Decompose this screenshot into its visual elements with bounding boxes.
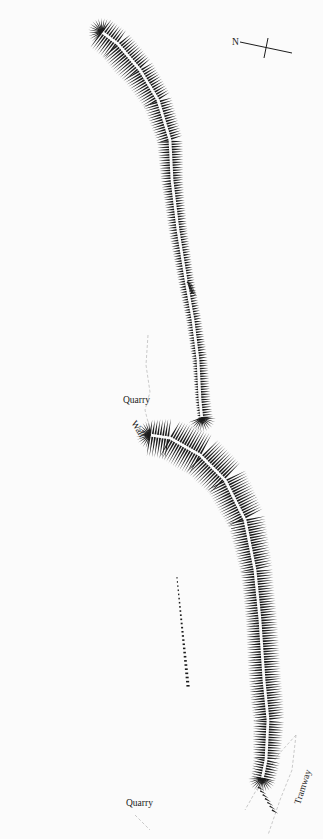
scarp-tick — [184, 664, 187, 666]
scarp-tick — [181, 623, 183, 625]
scarp-tick — [184, 656, 187, 658]
scarp-tick — [185, 673, 188, 675]
scarp-tick — [181, 631, 183, 633]
scarp-tick — [178, 598, 179, 600]
scarp-tick — [183, 648, 185, 650]
scarp-tick — [181, 627, 183, 629]
north-arrow-label: N — [232, 37, 239, 47]
label-quarry-upper: Quarry — [123, 395, 150, 405]
scarp-tick — [182, 635, 184, 637]
label-quarry-lower: Quarry — [126, 798, 153, 808]
scarp-tick — [180, 619, 182, 621]
scarp-tick — [183, 652, 186, 654]
scarp-tick — [179, 602, 181, 604]
scarp-tick — [177, 581, 178, 583]
scarp-tick — [180, 614, 182, 616]
scarp-tick — [177, 585, 178, 587]
scarp-tick — [182, 639, 184, 641]
scarp-tick — [185, 668, 188, 670]
scarp-tick — [183, 643, 185, 645]
scarp-tick — [184, 660, 187, 662]
scarp-tick — [177, 577, 178, 579]
scarp-tick — [186, 677, 189, 679]
scarp-tick — [179, 606, 181, 608]
scarp-tick — [186, 681, 189, 683]
scarp-tick — [178, 589, 179, 591]
scarp-tick — [180, 610, 182, 612]
earthwork-plan: N Quarry Wall Tramway Quarry — [0, 0, 323, 839]
scarp-tick — [178, 594, 179, 596]
scarp-tick — [186, 685, 189, 687]
